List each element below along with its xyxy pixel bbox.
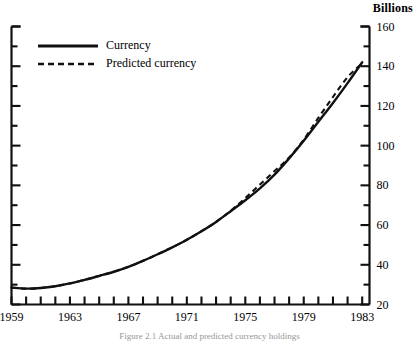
x-axis-tick-label: 1959 [0, 311, 36, 323]
x-axis-tick-label: 1983 [338, 311, 386, 323]
y-axis-tick-label: 140 [377, 60, 395, 72]
y-axis-tick-label: 100 [377, 140, 395, 152]
x-axis-tick-label: 1967 [104, 311, 152, 323]
series-line-predicted [12, 63, 363, 288]
x-axis-tick-label: 1975 [221, 311, 269, 323]
x-axis-tick-label: 1979 [280, 311, 328, 323]
y-axis-tick-label: 20 [377, 299, 389, 311]
y-axis-tick-label: 40 [377, 259, 389, 271]
legend-label-predicted-currency: Predicted currency [106, 57, 196, 69]
figure-caption: Figure 2.1 Actual and predicted currency… [0, 331, 419, 341]
y-axis-tick-label: 60 [377, 219, 389, 231]
legend-label-currency: Currency [106, 39, 151, 51]
y-axis-tick-label: 120 [377, 100, 395, 112]
series-line-actual [12, 62, 363, 288]
y-axis-unit-label: Billions [373, 1, 413, 16]
x-axis-tick-label: 1971 [163, 311, 211, 323]
y-axis-tick-label: 80 [377, 179, 389, 191]
y-axis-tick-label: 160 [377, 21, 395, 33]
x-axis-tick-label: 1963 [46, 311, 94, 323]
